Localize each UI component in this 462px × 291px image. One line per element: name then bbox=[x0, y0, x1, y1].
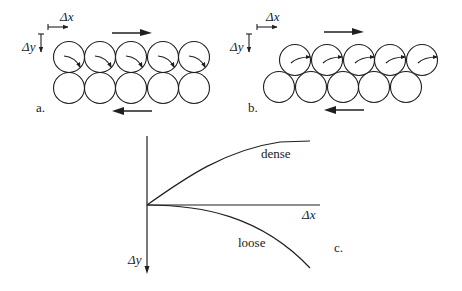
particle bbox=[116, 73, 147, 104]
rotation-arrow-icon bbox=[323, 57, 342, 63]
granular-shear-dilatancy-figure: Δx Δy bbox=[0, 0, 462, 291]
shear-arrow-top-b bbox=[324, 28, 364, 35]
loose-label: loose bbox=[238, 235, 266, 250]
rotation-arrow-icon bbox=[126, 56, 142, 67]
panel-a: Δx Δy bbox=[21, 9, 210, 115]
rotation-arrow-icon bbox=[291, 57, 310, 63]
delta-y-label-a: Δy bbox=[21, 39, 36, 54]
panel-label-b: b. bbox=[248, 100, 258, 115]
delta-x-label-b: Δx bbox=[265, 9, 280, 24]
particle bbox=[148, 73, 179, 104]
panel-label-c: c. bbox=[334, 240, 343, 255]
bottom-row-particles-a bbox=[54, 73, 210, 104]
bottom-row-particles-b bbox=[264, 72, 422, 103]
rotation-arrow-icon bbox=[418, 57, 437, 63]
delta-x-label-a: Δx bbox=[59, 9, 74, 24]
rotation-arrows-b bbox=[291, 57, 437, 63]
shear-arrow-bottom-b bbox=[324, 106, 364, 114]
rotation-arrow-icon bbox=[386, 57, 405, 63]
particle bbox=[179, 73, 210, 104]
particle bbox=[391, 72, 422, 103]
particle bbox=[328, 72, 359, 103]
particle bbox=[359, 72, 390, 103]
delta-x-indicator-a: Δx bbox=[48, 9, 74, 30]
dense-label: dense bbox=[261, 146, 291, 161]
shear-arrow-bottom-a bbox=[112, 107, 152, 115]
panel-b: Δx Δy bbox=[229, 9, 438, 115]
particle bbox=[296, 72, 327, 103]
panel-label-a: a. bbox=[36, 100, 45, 115]
rotation-arrow-icon bbox=[95, 56, 111, 67]
delta-y-indicator-b: Δy bbox=[229, 34, 252, 54]
rotation-arrow-icon bbox=[189, 56, 205, 67]
delta-y-indicator-a: Δy bbox=[21, 34, 44, 54]
delta-x-indicator-b: Δx bbox=[257, 9, 280, 30]
rotation-arrow-icon bbox=[64, 56, 80, 67]
rotation-arrow-icon bbox=[158, 56, 174, 67]
delta-y-label-b: Δy bbox=[229, 39, 244, 54]
loose-curve bbox=[147, 205, 310, 268]
particle bbox=[264, 72, 295, 103]
y-axis-arrow-icon bbox=[145, 266, 150, 274]
panel-c-chart: dense loose Δx Δy c. bbox=[127, 136, 343, 274]
rotation-arrow-icon bbox=[355, 57, 374, 63]
y-axis-label: Δy bbox=[127, 252, 142, 267]
particle bbox=[54, 73, 85, 104]
shear-arrow-top-a bbox=[112, 29, 152, 36]
x-axis-label: Δx bbox=[301, 207, 316, 222]
particle bbox=[85, 73, 116, 104]
